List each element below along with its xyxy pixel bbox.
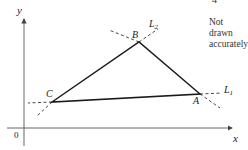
line-l1-extension-left <box>28 102 52 103</box>
origin-label: 0 <box>14 131 19 140</box>
note-line-2: accurately <box>209 39 248 50</box>
point-a-label: A <box>193 96 199 106</box>
not-drawn-accurately-note: Not drawn accurately <box>209 17 248 50</box>
point-b-label: B <box>132 30 138 40</box>
line-l2-extension-lower <box>36 102 52 117</box>
y-axis-label: y <box>17 5 22 16</box>
line-l1-label: L1 <box>224 85 233 97</box>
point-c-label: C <box>46 89 53 99</box>
line-l2-subscript: 2 <box>155 23 159 31</box>
question-number: 4 <box>212 0 217 5</box>
line-l1-subscript: 1 <box>230 89 234 97</box>
line-l1-extension-right <box>200 93 222 94</box>
line-l2-label: L2 <box>149 19 158 31</box>
note-line-1: Not drawn <box>209 17 248 39</box>
x-axis-label: x <box>233 133 238 144</box>
triangle-abc <box>52 42 200 102</box>
line-ab-extension-lower <box>200 94 220 108</box>
